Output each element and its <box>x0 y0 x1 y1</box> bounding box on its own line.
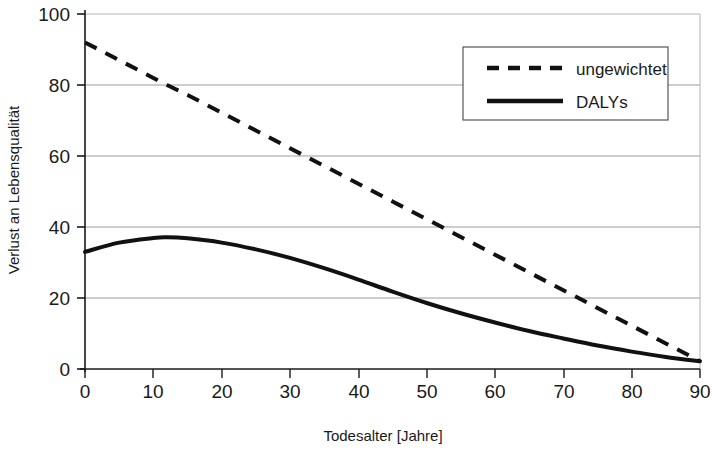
x-tick-label-70: 70 <box>553 381 574 402</box>
y-tick-label-20: 20 <box>49 288 70 309</box>
y-axis-ticks <box>77 14 85 369</box>
x-tick-label-20: 20 <box>211 381 232 402</box>
y-tick-label-40: 40 <box>49 217 70 238</box>
y-tick-label-0: 0 <box>59 359 70 380</box>
line-chart: 100 80 60 40 20 0 0 10 20 30 40 50 60 70… <box>0 0 712 452</box>
legend-label-dalys: DALYs <box>576 93 628 112</box>
chart-figure: 100 80 60 40 20 0 0 10 20 30 40 50 60 70… <box>0 0 712 452</box>
y-tick-label-60: 60 <box>49 146 70 167</box>
legend-box <box>463 47 668 120</box>
x-tick-label-60: 60 <box>484 381 505 402</box>
x-tick-label-0: 0 <box>80 381 91 402</box>
x-tick-label-50: 50 <box>416 381 437 402</box>
x-tick-label-30: 30 <box>279 381 300 402</box>
x-axis-title: Todesalter [Jahre] <box>323 427 442 444</box>
y-tick-label-100: 100 <box>38 4 70 25</box>
x-tick-label-80: 80 <box>621 381 642 402</box>
x-tick-label-90: 90 <box>689 381 710 402</box>
y-axis-title: Verlust an Lebensqualität <box>5 105 22 274</box>
legend-label-ungewichtet: ungewichtet <box>576 60 667 79</box>
x-axis-tick-labels: 0 10 20 30 40 50 60 70 80 90 <box>80 381 711 402</box>
x-tick-label-10: 10 <box>142 381 163 402</box>
x-axis-ticks <box>85 369 700 378</box>
chart-legend: ungewichtet DALYs <box>463 47 668 120</box>
x-tick-label-40: 40 <box>348 381 369 402</box>
y-axis-tick-labels: 100 80 60 40 20 0 <box>38 4 70 380</box>
y-tick-label-80: 80 <box>49 75 70 96</box>
